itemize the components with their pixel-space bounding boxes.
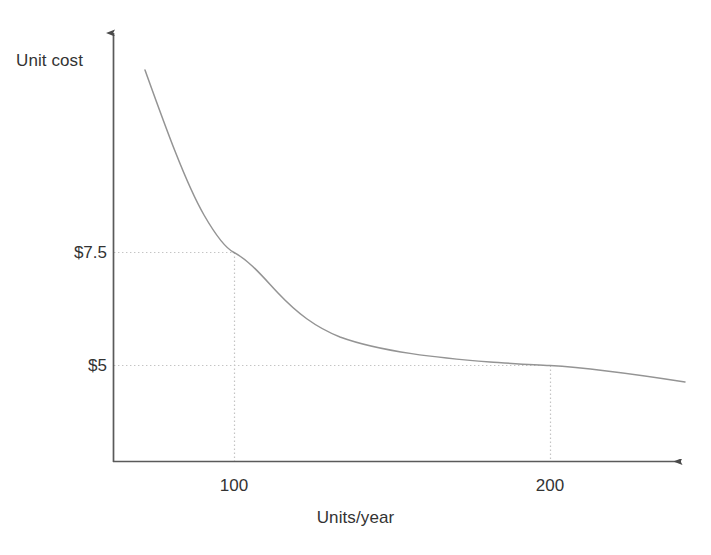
y-tick-label-5: $5 bbox=[88, 356, 107, 376]
x-tick-label-100: 100 bbox=[220, 476, 248, 496]
x-tick-label-200: 200 bbox=[536, 476, 564, 496]
chart-container: Unit cost Units/year $7.5 $5 100 200 bbox=[0, 0, 711, 555]
chart-plot-area bbox=[0, 0, 711, 555]
y-tick-label-7-5: $7.5 bbox=[74, 243, 107, 263]
unit-cost-curve bbox=[145, 70, 685, 382]
y-axis-title: Unit cost bbox=[16, 51, 83, 71]
x-axis-title: Units/year bbox=[0, 508, 711, 528]
